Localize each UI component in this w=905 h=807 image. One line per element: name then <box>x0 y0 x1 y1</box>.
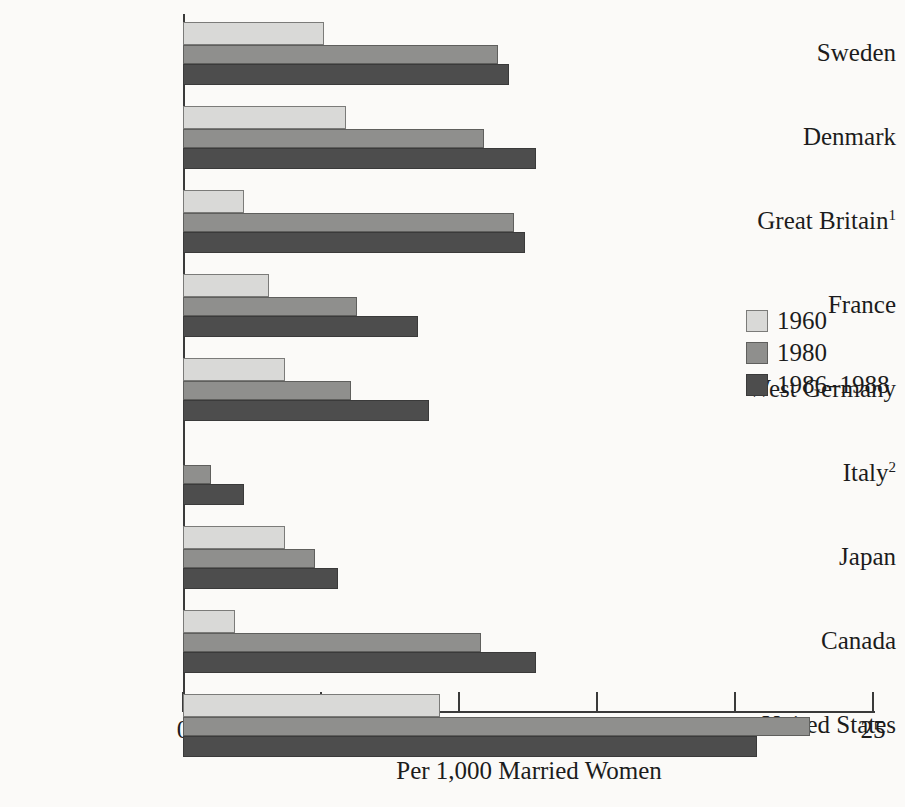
footnote-marker: 1 <box>889 206 897 222</box>
x-tick <box>734 692 736 712</box>
bar <box>183 484 244 505</box>
bar <box>183 106 346 129</box>
bar <box>183 465 211 484</box>
legend-label-1960: 1960 <box>777 308 827 334</box>
bar-chart: 0510152025 SwedenDenmarkGreat Britain1Fr… <box>0 0 905 807</box>
legend-label-1986-1988: 1986–1988 <box>777 372 890 398</box>
category-label: Canada <box>730 627 905 655</box>
category-label: Sweden <box>730 39 905 67</box>
legend-item-1986-1988: 1986–1988 <box>746 371 890 399</box>
bar <box>183 232 525 253</box>
x-tick <box>458 692 460 712</box>
bar <box>183 129 484 148</box>
x-tick <box>596 692 598 712</box>
bar <box>183 736 757 757</box>
category-label: Great Britain1 <box>730 207 905 235</box>
bar <box>183 652 536 673</box>
bar <box>183 717 810 736</box>
x-axis-title: Per 1,000 Married Women <box>183 757 875 785</box>
bar <box>183 297 357 316</box>
bar <box>183 568 338 589</box>
bar <box>183 190 244 213</box>
legend-label-1980: 1980 <box>777 340 827 366</box>
bar <box>183 526 285 549</box>
legend-swatch-icon-1986-1988 <box>746 374 768 396</box>
legend-swatch-icon-1980 <box>746 342 768 364</box>
bar <box>183 45 498 64</box>
bar <box>183 610 235 633</box>
bar <box>183 274 269 297</box>
bar <box>183 400 429 421</box>
bar <box>183 633 481 652</box>
x-tick <box>872 692 874 712</box>
bar <box>183 316 418 337</box>
legend-swatch-icon-1960 <box>746 310 768 332</box>
bar <box>183 213 514 232</box>
bar <box>183 549 315 568</box>
bar <box>183 381 351 400</box>
legend: 1960 1980 1986–1988 <box>746 307 890 403</box>
footnote-marker: 2 <box>889 458 897 474</box>
bar <box>183 694 440 717</box>
bar <box>183 22 324 45</box>
bar <box>183 358 285 381</box>
category-label: Japan <box>730 543 905 571</box>
legend-item-1960: 1960 <box>746 307 890 335</box>
bar <box>183 64 509 85</box>
bar <box>183 148 536 169</box>
legend-item-1980: 1980 <box>746 339 890 367</box>
category-label: Italy2 <box>730 459 905 487</box>
category-label: Denmark <box>730 123 905 151</box>
